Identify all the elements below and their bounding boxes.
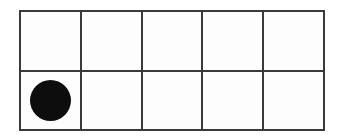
frame-cell-r0c2[interactable] xyxy=(143,12,204,72)
frame-cell-r0c0[interactable] xyxy=(21,12,82,72)
frame-cell-r0c1[interactable] xyxy=(82,12,143,72)
frame-cell-r1c0[interactable] xyxy=(21,72,82,132)
frame-cell-r0c3[interactable] xyxy=(203,12,264,72)
counter-token xyxy=(30,80,71,121)
frame-cell-r0c4[interactable] xyxy=(264,12,325,72)
frame-cell-r1c3[interactable] xyxy=(203,72,264,132)
frame-cell-r1c2[interactable] xyxy=(143,72,204,132)
frame-cell-r1c4[interactable] xyxy=(264,72,325,132)
frame-cell-r1c1[interactable] xyxy=(82,72,143,132)
ten-frame-grid xyxy=(19,10,325,131)
ten-frame-figure xyxy=(0,0,341,140)
